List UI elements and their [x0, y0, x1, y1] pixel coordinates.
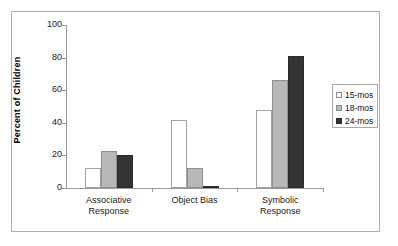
y-axis-tick-value: 60 — [26, 85, 62, 94]
y-axis-tick-label: 0 — [20, 183, 62, 192]
legend-item-24-mos[interactable]: 24-mos — [336, 115, 377, 127]
y-axis-tick-value: 0 — [26, 183, 62, 192]
y-axis-tick-label: 100 — [20, 20, 62, 29]
bar-object-bias-18-mos — [187, 168, 203, 188]
y-axis-tick-value: 20 — [26, 150, 62, 159]
chart-figure: Percent of Children 020406080100 Associa… — [0, 0, 398, 246]
bar-object-bias-24-mos — [203, 186, 219, 188]
legend-label: 18-mos — [345, 104, 373, 113]
x-axis-label-line: Symbolic — [235, 195, 325, 206]
x-axis-line — [66, 188, 324, 189]
legend-swatch-icon — [336, 118, 342, 124]
x-axis-label-line: Response — [235, 206, 325, 217]
x-axis-label-line: Response — [64, 206, 154, 217]
y-axis-tick-value: 100 — [26, 20, 62, 29]
x-axis-group-separator — [237, 188, 238, 192]
legend-label: 15-mos — [345, 91, 373, 100]
chart-legend: 15-mos18-mos24-mos — [332, 84, 378, 128]
bar-symbolic-response-18-mos — [272, 80, 288, 188]
x-axis-label-object-bias: Object Bias — [150, 195, 240, 206]
plot-area — [66, 25, 323, 188]
bar-associative-response-24-mos — [117, 155, 133, 188]
x-axis-group-separator — [152, 188, 153, 192]
y-axis-tick-label: 80 — [20, 53, 62, 62]
legend-item-15-mos[interactable]: 15-mos — [336, 89, 377, 101]
x-axis-label-line: Associative — [64, 195, 154, 206]
y-axis-tick-value: 40 — [26, 118, 62, 127]
legend-label: 24-mos — [345, 117, 373, 126]
y-axis-tick-value: 80 — [26, 53, 62, 62]
y-axis-tick-label: 20 — [20, 150, 62, 159]
bar-object-bias-15-mos — [171, 120, 187, 188]
y-axis-tick-label: 40 — [20, 118, 62, 127]
x-axis-label-line: Object Bias — [150, 195, 240, 206]
legend-swatch-icon — [336, 92, 342, 98]
x-axis-label-symbolic-response: SymbolicResponse — [235, 195, 325, 217]
legend-item-18-mos[interactable]: 18-mos — [336, 102, 377, 114]
bar-associative-response-15-mos — [85, 168, 101, 188]
bar-symbolic-response-24-mos — [288, 56, 304, 188]
bar-symbolic-response-15-mos — [256, 110, 272, 188]
legend-swatch-icon — [336, 105, 342, 111]
x-axis-end-tick — [323, 188, 324, 192]
y-axis-tick-label: 60 — [20, 85, 62, 94]
x-axis-label-associative-response: AssociativeResponse — [64, 195, 154, 217]
bar-associative-response-18-mos — [101, 151, 117, 188]
